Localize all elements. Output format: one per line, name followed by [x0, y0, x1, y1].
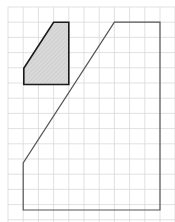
- grid-diagram: [0, 0, 175, 222]
- diagram-svg: [0, 0, 175, 222]
- grid-lines: [8, 7, 175, 222]
- small-shaded-shape: [24, 22, 69, 84]
